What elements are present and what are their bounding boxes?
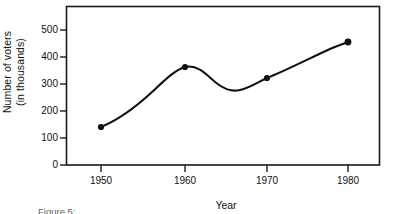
plot-frame [67, 7, 380, 166]
data-point-1960 [182, 64, 188, 70]
data-point-1950 [98, 124, 104, 130]
line-chart-plot [0, 0, 397, 214]
data-point-1970 [264, 75, 270, 81]
y-axis-ticks [60, 30, 66, 165]
figure-caption: Figure 5: [38, 206, 76, 214]
figure-container: Number of voters (in thousands) 0 100 20… [0, 0, 397, 214]
x-axis-ticks [101, 165, 348, 172]
data-point-1980 [345, 39, 352, 46]
